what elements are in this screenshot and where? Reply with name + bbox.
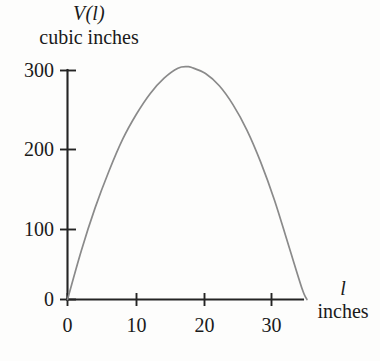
x-tick-label-10: 10 <box>115 315 158 335</box>
y-tick-label-0: 0 <box>12 289 54 309</box>
x-tick-label-30: 30 <box>250 315 293 335</box>
x-tick-label-0: 0 <box>46 315 89 335</box>
volume-curve <box>68 67 307 300</box>
volume-function-graph-figure: V(l) cubic inches l inches 0 100 200 <box>0 0 380 361</box>
x-tick-label-20: 20 <box>183 315 226 335</box>
y-tick-label-200: 200 <box>12 139 54 159</box>
plot-area <box>0 0 380 361</box>
y-tick-label-300: 300 <box>12 60 54 80</box>
y-tick-label-100: 100 <box>12 219 54 239</box>
